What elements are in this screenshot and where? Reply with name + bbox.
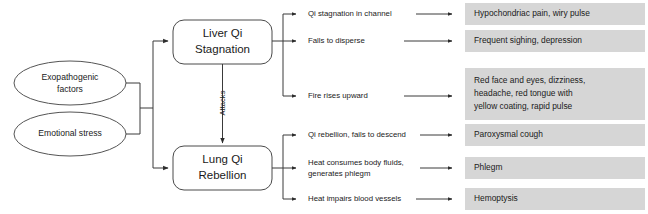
symptom-3-line3: yellow coating, rapid pulse: [474, 101, 573, 111]
cause-merge-connector-group: [126, 41, 168, 168]
pattern-node-liver-qi-stagnation[interactable]: Liver Qi Stagnation: [173, 20, 272, 64]
symptom-2-line1: Frequent sighing, depression: [474, 35, 582, 45]
symptom-1-line1: Hypochondriac pain, wiry pulse: [474, 8, 590, 18]
mechanism-label-heat-consumes-body-fluids[interactable]: Heat consumes body fluids, generates phl…: [308, 158, 404, 178]
lung-qi-rebellion-label-line1: Lung Qi: [202, 153, 242, 165]
mechanism-5-line2: generates phlegm: [308, 169, 370, 178]
mechanism-6-line1: Heat impairs blood vessels: [308, 194, 401, 203]
mechanism-to-symptom-arrows: [404, 14, 452, 199]
mechanism-3-line1: Fire rises upward: [308, 91, 368, 100]
cause-node-emotional-stress[interactable]: Emotional stress: [14, 112, 126, 156]
liver-connector-branch-1: [283, 14, 296, 41]
lung-connector-branch-1: [283, 135, 296, 168]
emotional-stress-label-line1: Emotional stress: [38, 128, 102, 138]
mechanism-1-line1: Qi stagnation in channel: [308, 9, 392, 18]
symptom-6-line1: Hemoptysis: [474, 193, 518, 203]
mechanism-label-heat-impairs-blood-vessels[interactable]: Heat impairs blood vessels: [308, 194, 401, 203]
symptom-box-hypochondriac-pain[interactable]: Hypochondriac pain, wiry pulse: [465, 3, 645, 25]
symptom-3-line1: Red face and eyes, dizziness,: [474, 75, 585, 85]
symptom-box-frequent-sighing[interactable]: Frequent sighing, depression: [465, 30, 645, 52]
cause-node-exopathogenic[interactable]: Exopathogenic factors: [14, 61, 126, 105]
mechanism-label-qi-stagnation-in-channel[interactable]: Qi stagnation in channel: [308, 9, 392, 18]
symptom-3-line2: headache, red tongue with: [474, 88, 573, 98]
symptom-5-line1: Phlegm: [474, 162, 502, 172]
mechanism-label-fails-to-disperse[interactable]: Falls to disperse: [308, 36, 365, 45]
liver-branch-connectors: [272, 14, 296, 96]
lung-branch-connectors: [272, 135, 296, 199]
exopathogenic-label-line2: factors: [57, 84, 83, 94]
symptom-box-paroxysmal-cough[interactable]: Paroxysmal cough: [465, 124, 645, 146]
mechanism-5-line1: Heat consumes body fluids,: [308, 158, 404, 167]
connector-to-liver-qi-stagnation: [153, 41, 168, 108]
mechanism-label-qi-rebellion-fails-to-descend[interactable]: Qi rebellion, fails to descend: [308, 130, 406, 139]
symptom-box-red-face-and-eyes[interactable]: Red face and eyes, dizziness, headache, …: [465, 68, 645, 120]
lung-connector-branch-3: [283, 168, 296, 199]
pattern-node-lung-qi-rebellion[interactable]: Lung Qi Rebellion: [173, 146, 272, 190]
mechanism-2-line1: Falls to disperse: [308, 36, 365, 45]
flowchart-diagram: Exopathogenic factors Emotional stress L…: [0, 0, 648, 214]
liver-qi-stagnation-label-line2: Stagnation: [195, 43, 250, 55]
liver-connector-branch-3: [283, 41, 296, 96]
attacks-relation-group: Attacks: [218, 64, 227, 143]
exopathogenic-label-line1: Exopathogenic: [42, 72, 100, 82]
attacks-label: Attacks: [218, 90, 227, 115]
lung-qi-rebellion-label-line2: Rebellion: [199, 169, 247, 181]
flowchart-canvas: Exopathogenic factors Emotional stress L…: [0, 0, 648, 214]
mechanism-4-line1: Qi rebellion, fails to descend: [308, 130, 406, 139]
symptom-box-phlegm[interactable]: Phlegm: [465, 157, 645, 179]
liver-qi-stagnation-label-line1: Liver Qi: [203, 27, 243, 39]
symptom-box-hemoptysis[interactable]: Hemoptysis: [465, 188, 645, 210]
connector-to-lung-qi-rebellion: [153, 108, 168, 168]
symptom-4-line1: Paroxysmal cough: [474, 129, 543, 139]
mechanism-label-fire-rises-upward[interactable]: Fire rises upward: [308, 91, 368, 100]
cause-merge-bracket: [126, 83, 140, 134]
exopathogenic-ellipse-shape: [14, 61, 126, 105]
